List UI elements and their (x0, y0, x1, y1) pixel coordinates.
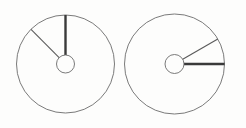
dial-diagram (0, 0, 246, 128)
diagram-canvas (0, 0, 246, 128)
